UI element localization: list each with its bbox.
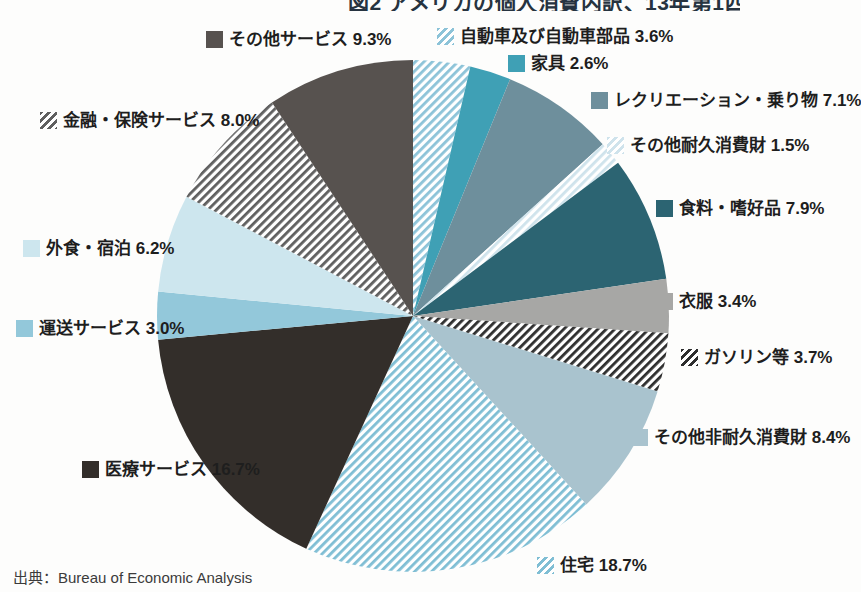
legend-item-autos: 自動車及び自動車部品 3.6% (437, 28, 673, 45)
clothing-swatch-icon (656, 293, 673, 310)
legend-item-other-services: その他サービス 9.3% (206, 31, 391, 48)
legend-item-finance: 金融・保険サービス 8.0% (40, 112, 259, 129)
housing-swatch-icon (537, 557, 554, 574)
legend-item-other-nondur: その他非耐久消費財 8.4% (631, 429, 850, 446)
legend-label: ガソリン等 3.7% (704, 349, 832, 366)
furniture-swatch-icon (508, 55, 525, 72)
finance-insurance-swatch-icon (40, 112, 57, 129)
legend-label: その他耐久消費財 1.5% (630, 137, 809, 154)
legend-label: 金融・保険サービス 8.0% (63, 112, 259, 129)
dining-lodging-swatch-icon (23, 240, 40, 257)
other-services-swatch-icon (206, 31, 223, 48)
legend-item-dining-lodging: 外食・宿泊 6.2% (23, 240, 174, 257)
legend-label: 食料・嗜好品 7.9% (679, 200, 824, 217)
legend-item-transport: 運送サービス 3.0% (16, 320, 184, 337)
legend-label: その他非耐久消費財 8.4% (654, 429, 850, 446)
transport-swatch-icon (16, 320, 33, 337)
legend-label: 運送サービス 3.0% (39, 320, 184, 337)
food-swatch-icon (656, 200, 673, 217)
other-durables-swatch-icon (607, 137, 624, 154)
legend-label: レクリエーション・乗り物 7.1% (614, 92, 861, 109)
legend-label: 住宅 18.7% (560, 557, 647, 574)
recreation-swatch-icon (591, 92, 608, 109)
other-nondurables-swatch-icon (631, 429, 648, 446)
medical-swatch-icon (82, 461, 99, 478)
legend-item-medical: 医療サービス 16.7% (82, 461, 260, 478)
legend-item-gasoline: ガソリン等 3.7% (681, 349, 832, 366)
legend-item-housing: 住宅 18.7% (537, 557, 647, 574)
legend-label: その他サービス 9.3% (229, 31, 391, 48)
legend-label: 自動車及び自動車部品 3.6% (460, 28, 673, 45)
legend-label: 外食・宿泊 6.2% (46, 240, 174, 257)
legend-item-other-durables: その他耐久消費財 1.5% (607, 137, 809, 154)
legend-item-recreation: レクリエーション・乗り物 7.1% (591, 92, 861, 109)
legend-item-clothing: 衣服 3.4% (656, 293, 756, 310)
legend-label: 医療サービス 16.7% (105, 461, 260, 478)
autos-swatch-icon (437, 28, 454, 45)
source-note: 出典：Bureau of Economic Analysis (13, 566, 252, 587)
gasoline-swatch-icon (681, 349, 698, 366)
legend-item-food: 食料・嗜好品 7.9% (656, 200, 824, 217)
legend-label: 家具 2.6% (531, 55, 608, 72)
legend-item-furniture: 家具 2.6% (508, 55, 608, 72)
legend-label: 衣服 3.4% (679, 293, 756, 310)
